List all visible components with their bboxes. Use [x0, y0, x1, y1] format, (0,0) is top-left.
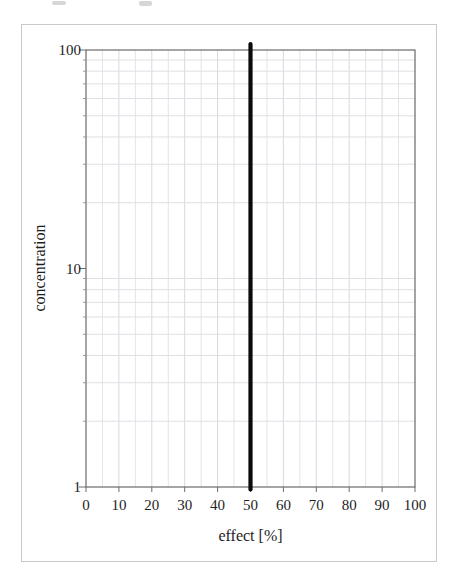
x-tick-label: 40 [200, 496, 236, 514]
x-tick-label: 90 [364, 496, 400, 514]
x-tick-label: 30 [167, 496, 203, 514]
y-tick-label: 100 [39, 41, 81, 59]
x-tick-label: 10 [101, 496, 137, 514]
x-tick-label: 80 [331, 496, 367, 514]
y-axis-title: concentration [31, 224, 49, 311]
x-axis-title: effect [%] [150, 527, 351, 545]
x-tick-label: 50 [233, 496, 269, 514]
figure-canvas: 0102030405060708090100 110100 effect [%]… [0, 0, 458, 587]
x-tick-label: 70 [298, 496, 334, 514]
x-tick-label: 0 [68, 496, 104, 514]
y-tick-label: 1 [39, 478, 81, 496]
x-tick-label: 100 [397, 496, 433, 514]
x-tick-label: 20 [134, 496, 170, 514]
x-tick-label: 60 [265, 496, 301, 514]
